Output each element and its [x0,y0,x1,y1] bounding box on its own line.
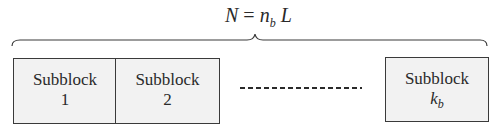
subblock-2: Subblock 2 [115,58,220,124]
subblock-1: Subblock 1 [13,58,117,124]
subblock-kb: Subblock kb [385,57,489,122]
subblock-index: k [430,89,438,108]
subblock-index-sub: b [438,97,444,111]
subblock-label: Subblock [116,70,219,90]
subblock-index: 2 [163,90,172,109]
subblock-label: Subblock [14,70,116,90]
subblock-label: Subblock [386,69,488,89]
subblock-index: 1 [61,90,70,109]
curly-brace [12,34,487,46]
